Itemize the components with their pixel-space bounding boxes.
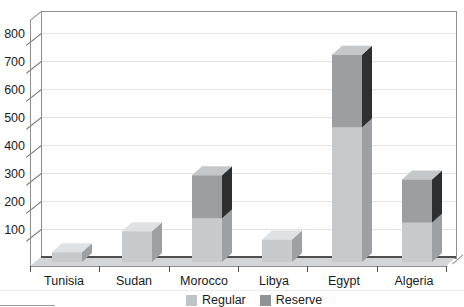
y-axis-label: 800 — [0, 27, 25, 41]
chart-layers: 100200300400500600700800TunisiaSudanMoro… — [0, 0, 464, 307]
x-axis-label: Egypt — [309, 274, 379, 288]
chart-legend: Regular Reserve — [186, 293, 330, 307]
legend-item-regular: Regular — [186, 293, 246, 307]
chart-canvas: 100200300400500600700800TunisiaSudanMoro… — [0, 0, 464, 307]
y-axis-label: 300 — [0, 167, 25, 181]
legend-label-regular: Regular — [202, 293, 246, 307]
page-edge-artifact — [0, 305, 55, 306]
y-axis-tick — [26, 145, 42, 158]
x-axis-tick — [377, 266, 378, 272]
x-axis-tick — [169, 266, 170, 272]
y-axis-tick — [26, 117, 42, 130]
x-axis-label: Morocco — [169, 274, 239, 288]
y-axis-label: 600 — [0, 83, 25, 97]
x-axis-label: Tunisia — [29, 274, 99, 288]
y-axis-label: 700 — [0, 55, 25, 69]
y-axis-tick — [26, 201, 42, 214]
gridline — [42, 201, 455, 202]
x-axis-label: Sudan — [99, 274, 169, 288]
axis-top-connector — [30, 11, 42, 21]
floor-back-edge — [41, 256, 456, 258]
x-axis-label: Libya — [239, 274, 309, 288]
back-wall-frame — [41, 11, 457, 259]
x-axis-tick — [446, 266, 447, 272]
gridline — [42, 117, 455, 118]
y-axis-label: 400 — [0, 139, 25, 153]
y-axis-line — [30, 20, 31, 266]
gridline — [42, 33, 455, 34]
x-axis-tick — [307, 266, 308, 272]
x-axis-tick — [99, 266, 100, 272]
gridline — [42, 145, 455, 146]
y-axis-label: 100 — [0, 223, 25, 237]
x-axis-label: Algeria — [379, 274, 449, 288]
x-axis-tick — [30, 266, 31, 272]
legend-swatch-regular-icon — [186, 295, 197, 306]
gridline — [42, 173, 455, 174]
y-axis-label: 200 — [0, 195, 25, 209]
y-axis-tick — [26, 229, 42, 242]
legend-label-reserve: Reserve — [276, 293, 323, 307]
y-axis-tick — [26, 61, 42, 74]
scan-artifact-rule — [0, 290, 464, 291]
gridline — [42, 61, 455, 62]
legend-swatch-reserve-icon — [260, 295, 271, 306]
gridline — [42, 229, 455, 230]
x-axis-tick — [238, 266, 239, 272]
y-axis-tick — [26, 89, 42, 102]
y-axis-tick — [26, 33, 42, 46]
gridline — [42, 89, 455, 90]
y-axis-label: 500 — [0, 111, 25, 125]
y-axis-tick — [26, 173, 42, 186]
legend-item-reserve: Reserve — [260, 293, 323, 307]
